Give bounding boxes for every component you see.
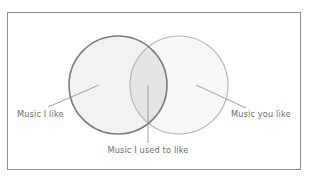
venn-diagram-canvas: Music I like Music I used to like Music …	[0, 0, 309, 183]
venn-diagram-figure: Music I like Music I used to like Music …	[0, 0, 309, 183]
venn-label-right: Music you like	[231, 109, 291, 119]
venn-label-left: Music I like	[17, 109, 64, 119]
venn-label-intersection: Music I used to like	[107, 145, 188, 155]
